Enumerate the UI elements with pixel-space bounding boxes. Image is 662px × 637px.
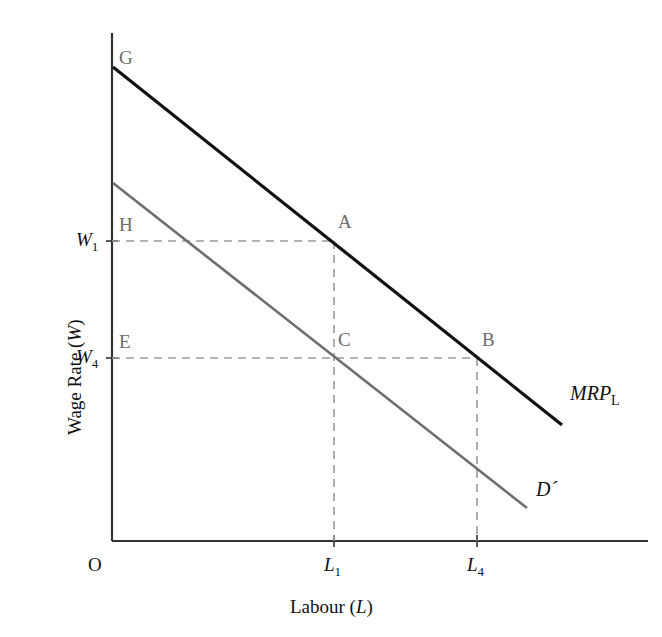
point-label-g: G xyxy=(119,48,133,67)
x-axis-title-var: L xyxy=(356,596,367,617)
point-label-a: A xyxy=(338,212,352,231)
origin-label: O xyxy=(88,554,102,576)
y-tick-label-w1-main: W xyxy=(76,229,92,250)
curve-label-mrp-main: MRP xyxy=(570,382,611,404)
y-axis-title: Wage Rate (W) xyxy=(64,319,86,435)
y-tick-label-w1: W1 xyxy=(76,229,98,255)
curve-label-mrp-sub: L xyxy=(611,393,620,408)
x-tick-label-l1-sub: 1 xyxy=(335,564,342,579)
point-label-c: C xyxy=(338,330,351,349)
x-tick-label-l1-main: L xyxy=(324,554,335,575)
chart-plot-area xyxy=(0,0,662,637)
x-tick-label-l4: L4 xyxy=(467,554,484,580)
x-tick-label-l1: L1 xyxy=(324,554,341,580)
point-label-e: E xyxy=(119,332,131,351)
x-axis-title: Labour (L) xyxy=(290,596,373,618)
y-axis-title-var: W xyxy=(64,326,85,342)
economics-labour-market-chart: G H A E C B MRPL D´ W1 W4 L1 L4 O Labour… xyxy=(0,0,662,637)
y-axis-title-prefix: Wage Rate ( xyxy=(64,342,85,435)
curve-label-mrp-l: MRPL xyxy=(570,382,620,409)
point-label-h: H xyxy=(119,215,133,234)
y-axis-title-suffix: ) xyxy=(64,319,85,325)
x-tick-label-l4-main: L xyxy=(467,554,478,575)
y-tick-label-w1-sub: 1 xyxy=(92,239,99,254)
x-axis-title-prefix: Labour ( xyxy=(290,596,356,617)
y-tick-label-w4-sub: 4 xyxy=(92,356,99,371)
x-tick-label-l4-sub: 4 xyxy=(478,564,485,579)
x-axis-title-suffix: ) xyxy=(367,596,373,617)
point-label-b: B xyxy=(482,330,495,349)
curve-mrp-l xyxy=(113,67,562,425)
curve-label-d-prime: D´ xyxy=(536,478,557,501)
